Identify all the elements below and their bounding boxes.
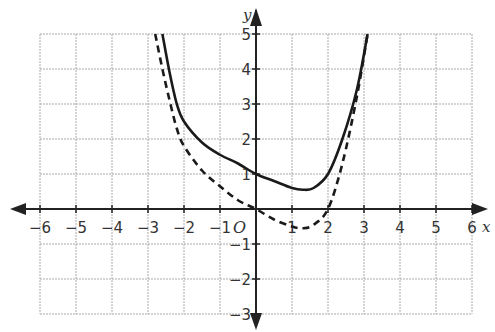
x-tick-label: −4 [101,219,123,237]
origin-label: O [233,218,246,237]
dashed-curve [155,34,367,228]
x-axis-right-arrow-icon [472,203,488,215]
x-tick-label: −6 [29,219,51,237]
y-tick-label: −3 [229,306,251,324]
y-tick-label: 5 [241,26,251,44]
x-tick-label: 4 [395,219,405,237]
y-tick-label: 4 [241,61,251,79]
solid-curve [162,34,367,190]
x-tick-label: −2 [173,219,195,237]
x-tick-label: 3 [359,219,369,237]
x-axis-left-arrow-icon [10,203,26,215]
y-axis-label: y [242,6,252,24]
y-axis-down-arrow-icon [250,313,262,330]
y-axis-up-arrow-icon [250,8,262,26]
graph: −6−5−4−3−2−112345654321−1−2−3 y x O [0,0,495,332]
y-tick-label: 2 [241,131,251,149]
y-tick-label: −1 [229,236,251,254]
x-tick-label: 6 [467,219,477,237]
x-tick-label: −5 [65,219,87,237]
x-tick-label: −1 [209,219,231,237]
y-tick-label: −2 [229,271,251,289]
x-tick-label: 2 [323,219,333,237]
x-tick-label: 5 [431,219,441,237]
y-tick-label: 3 [241,96,251,114]
curves [155,34,367,228]
x-tick-label: −3 [137,219,159,237]
x-axis-label: x [482,218,491,236]
